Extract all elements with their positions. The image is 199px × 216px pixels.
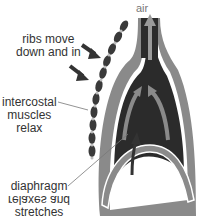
diaphragm-label-line-1: diaphragm [8,180,70,193]
intercostal-leader [58,102,88,110]
ribs-label: ribs move down and in [16,33,81,59]
ribs-label-line-2: down and in [16,46,81,59]
intercostal-label-line-3: relax [2,122,57,135]
diaphragm-label-line-2: relaxes and [8,193,70,206]
diaphragm-label: diaphragm relaxes and stretches [8,180,70,216]
intercostal-label: intercostal muscles relax [2,96,57,135]
diaphragm-label-line-3: stretches [8,206,70,216]
exhalation-diagram: air ribs move down and in intercostal mu… [0,0,199,216]
air-label: air [136,2,148,15]
